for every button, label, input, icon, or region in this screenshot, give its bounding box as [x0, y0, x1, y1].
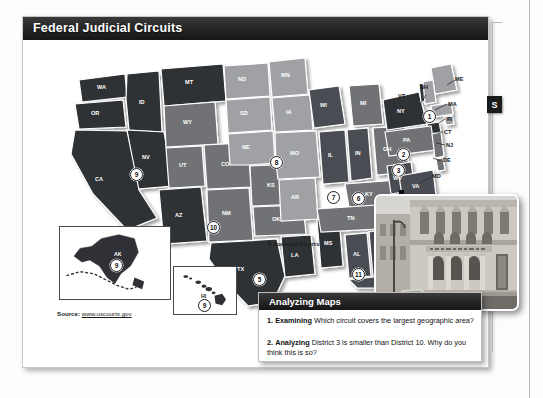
source-line: Source: www.uscourts.gov: [57, 310, 132, 317]
analyzing-maps-header: Analyzing Maps: [259, 293, 481, 310]
question-1-text: Which circuit covers the largest geograp…: [314, 316, 474, 325]
page-edge-rule-outer: [529, 0, 530, 398]
page-edge-rule-top: [492, 22, 502, 23]
state-label-va: VA: [412, 183, 419, 189]
state-label-ky: KY: [365, 191, 373, 197]
circuit-badge-11[interactable]: 11: [352, 268, 365, 281]
state-label-mt: MT: [185, 79, 193, 85]
state-label-mn: MN: [281, 72, 290, 78]
circuit-badge-5[interactable]: 5: [253, 273, 266, 286]
leader-label-ct: CT: [444, 129, 451, 135]
state-label-tn: TN: [347, 215, 354, 221]
section-tab-s[interactable]: S: [487, 96, 502, 113]
leader-label-me: ME: [455, 76, 463, 82]
state-label-ms: MS: [324, 240, 332, 246]
circuit-badge-9[interactable]: 9: [130, 168, 143, 181]
question-2-verb: Analyzing: [275, 338, 309, 347]
hawaii-circuit-badge[interactable]: 9: [198, 299, 211, 312]
circuit-badge-2[interactable]: 2: [397, 148, 410, 161]
state-label-wa: WA: [97, 84, 106, 90]
state-label-nm: NM: [222, 210, 231, 216]
question-2-number: 2.: [267, 338, 273, 347]
state-label-wy: WY: [183, 119, 192, 125]
leader-label-ri: RI: [447, 116, 453, 122]
circuit-badge-7[interactable]: 7: [327, 191, 340, 204]
state-label-id: ID: [139, 99, 145, 105]
state-label-nd: ND: [238, 76, 246, 82]
state-label-pa: PA: [403, 137, 410, 143]
state-label-ny: NY: [397, 108, 405, 114]
circuit-badge-6[interactable]: 6: [352, 192, 365, 205]
source-url[interactable]: www.uscourts.gov: [82, 310, 132, 317]
state-label-wv: WV: [393, 175, 402, 181]
state-label-ks: KS: [267, 182, 275, 188]
judicial-courts-caption: 5 Judicial Courts: [268, 240, 320, 247]
page-title: Federal Judicial Circuits: [33, 21, 183, 35]
state-label-sd: SD: [240, 110, 248, 116]
state-label-ut: UT: [179, 162, 186, 168]
state-label-la: LA: [291, 252, 298, 258]
state-label-az: AZ: [175, 212, 182, 218]
analyzing-maps-title: Analyzing Maps: [269, 296, 341, 307]
alaska-circuit-badge[interactable]: 9: [110, 259, 123, 272]
leader-label-nh: NH: [420, 84, 428, 90]
state-label-wi: WI: [320, 102, 327, 108]
state-label-oh: OH: [383, 146, 391, 152]
state-label-tx: TX: [237, 266, 244, 272]
state-label-ar: AR: [291, 194, 299, 200]
alaska-inset: AK 9: [59, 226, 171, 300]
circuit-badge-10[interactable]: 10: [207, 221, 220, 234]
hawaii-inset: HI 9: [173, 266, 237, 315]
state-label-ca: CA: [95, 176, 103, 182]
analyzing-maps-body: 1. Examining Which circuit covers the la…: [259, 310, 481, 361]
leader-label-nj: NJ: [446, 142, 453, 148]
state-label-al: AL: [353, 251, 360, 257]
source-label: Source:: [57, 310, 80, 317]
leader-label-vt: VT: [398, 93, 405, 99]
state-label-ok: OK: [272, 216, 280, 222]
state-label-il: IL: [328, 152, 333, 158]
state-label-nv: NV: [142, 154, 150, 160]
state-label-co: CO: [221, 161, 229, 167]
leader-label-md: MD: [432, 173, 441, 179]
alaska-abbr: AK: [114, 251, 122, 257]
circuit-badge-8[interactable]: 8: [270, 156, 283, 169]
question-1-verb: Examining: [275, 316, 312, 325]
state-label-or: OR: [91, 110, 99, 116]
analyzing-maps-box: Analyzing Maps 1. Examining Which circui…: [258, 292, 482, 362]
leader-label-ma: MA: [448, 101, 457, 107]
state-label-ne: NE: [242, 144, 250, 150]
card-header-bar: Federal Judicial Circuits: [23, 17, 488, 40]
state-label-ia: IA: [286, 109, 292, 115]
state-label-mi: MI: [360, 100, 366, 106]
leader-label-de: DE: [443, 157, 451, 163]
question-1-number: 1.: [267, 316, 273, 325]
state-label-mo: MO: [290, 150, 299, 156]
question-2: 2. Analyzing District 3 is smaller than …: [267, 338, 475, 357]
state-label-in: IN: [355, 150, 361, 156]
circuit-badge-1[interactable]: 1: [423, 110, 436, 123]
question-1: 1. Examining Which circuit covers the la…: [267, 316, 475, 326]
